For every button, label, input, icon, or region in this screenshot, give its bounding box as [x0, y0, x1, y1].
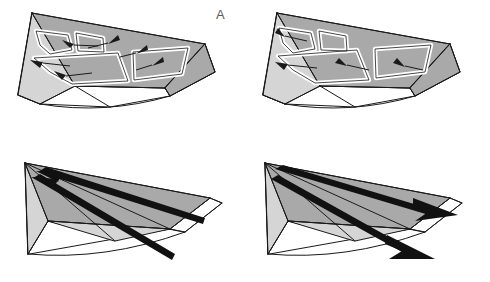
thick-arrow-lower-head	[385, 235, 435, 259]
panel-d-diagram	[245, 141, 490, 282]
panel-a-diagram	[0, 0, 245, 141]
panel-a: A	[0, 0, 245, 141]
panel-b: B	[0, 141, 245, 282]
panel-c: C	[245, 0, 490, 141]
panel-d: D	[245, 141, 490, 282]
panel-label-a: A	[216, 8, 225, 21]
panel-b-diagram	[0, 141, 245, 282]
panel-c-diagram	[245, 0, 490, 141]
figure-root: A	[0, 0, 490, 282]
